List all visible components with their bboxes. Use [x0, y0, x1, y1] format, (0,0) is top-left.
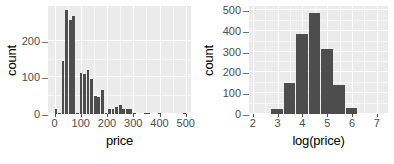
histogram-bar: [83, 74, 86, 114]
x-tick-label: 3: [274, 117, 280, 129]
histogram-bar: [94, 96, 97, 114]
y-tick-label: 400–: [223, 25, 247, 37]
histogram-bar: [333, 85, 345, 114]
x-tick-label: 7: [374, 117, 380, 129]
gridline-minor-vertical: [173, 6, 174, 114]
x-tick-label: 2: [250, 117, 256, 129]
x-tick-label: 400: [150, 117, 168, 129]
gridline-major-vertical: [253, 6, 254, 114]
x-tick-label: 0: [51, 117, 57, 129]
left-y-tick-labels: 0–100–200–: [18, 6, 46, 114]
histogram-bar: [62, 61, 65, 114]
x-tick-label: 6: [349, 117, 355, 129]
histogram-bar: [309, 13, 321, 114]
gridline-major-horizontal: [249, 9, 388, 10]
gridline-major-vertical: [377, 6, 378, 114]
gridline-major-vertical: [133, 6, 134, 114]
y-tick-label: 0–: [235, 108, 247, 120]
right-x-axis-title: log(price): [249, 133, 388, 148]
histogram-bar: [90, 79, 93, 115]
y-tick-label: 500–: [223, 4, 247, 16]
histogram-bar: [321, 49, 333, 114]
histogram-bar: [65, 10, 68, 114]
histogram-bar: [69, 20, 72, 114]
left-x-tick-labels: 0100200300400500: [48, 114, 191, 130]
histogram-bar: [97, 97, 100, 114]
histogram-bar: [87, 70, 90, 114]
gridline-major-vertical: [55, 6, 56, 114]
y-tick-label: 300–: [223, 46, 247, 58]
right-y-tick-labels: 0–100–200–300–400–500–: [213, 6, 247, 114]
histogram-bar: [296, 34, 308, 114]
histogram-bar: [115, 107, 118, 114]
gridline-major-vertical: [107, 6, 108, 114]
y-tick-label: 0–: [34, 108, 46, 120]
x-tick-label: 300: [124, 117, 142, 129]
gridline-major-vertical: [278, 6, 279, 114]
gridline-minor-vertical: [120, 6, 121, 114]
histogram-bar: [101, 90, 104, 114]
gridline-minor-vertical: [265, 6, 266, 114]
gridline-major-vertical: [352, 6, 353, 114]
histogram-bar: [119, 105, 122, 114]
logprice-histogram-panel: count 0–100–200–300–400–500– 234567 log(…: [197, 0, 394, 164]
gridline-minor-vertical: [146, 6, 147, 114]
x-tick-label: 4: [299, 117, 305, 129]
gridline-major-vertical: [160, 6, 161, 114]
x-tick-label: 200: [98, 117, 116, 129]
y-tick-label: 100–: [223, 87, 247, 99]
histogram-bar: [284, 83, 296, 114]
gridline-minor-vertical: [364, 6, 365, 114]
histogram-bar: [80, 73, 83, 114]
right-plot-panel: [249, 6, 388, 114]
price-histogram-panel: count 0–100–200– 0100200300400500 price: [0, 0, 197, 164]
histogram-bar: [72, 16, 75, 114]
x-tick-label: 100: [72, 117, 90, 129]
y-tick-label: 200–: [223, 66, 247, 78]
right-x-tick-labels: 234567: [249, 114, 388, 130]
gridline-major-vertical: [186, 6, 187, 114]
histogram-figure: count 0–100–200– 0100200300400500 price …: [0, 0, 394, 164]
left-x-axis-title: price: [48, 133, 191, 148]
x-tick-label: 500: [177, 117, 195, 129]
y-tick-label: 200–: [22, 35, 46, 47]
left-plot-panel: [48, 6, 191, 114]
x-tick-label: 5: [324, 117, 330, 129]
y-tick-label: 100–: [22, 71, 46, 83]
